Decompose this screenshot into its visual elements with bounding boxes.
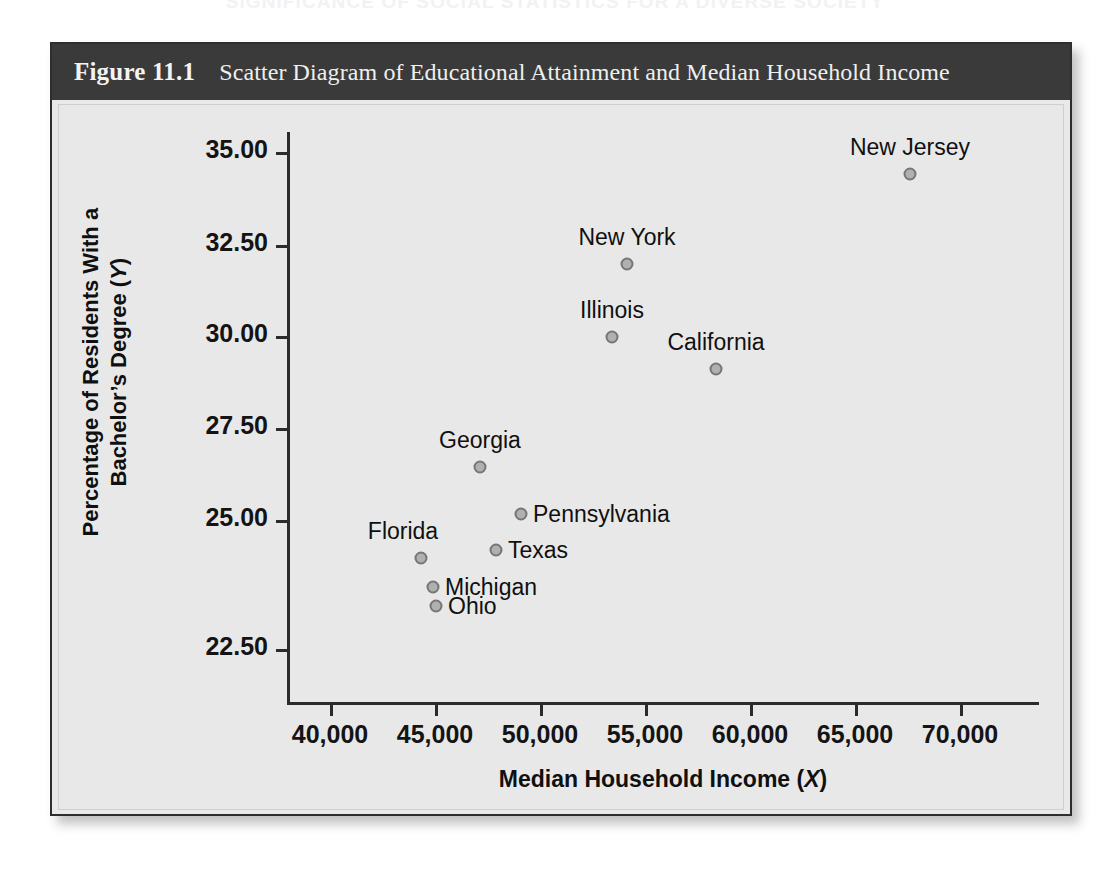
x-tick-mark bbox=[960, 705, 963, 716]
data-point-marker bbox=[430, 600, 443, 613]
x-tick-mark bbox=[330, 705, 333, 716]
data-point-label: Georgia bbox=[439, 427, 521, 454]
y-axis-variable: Y bbox=[106, 265, 131, 280]
figure-number: Figure 11.1 bbox=[74, 58, 195, 86]
y-tick-label: 35.00 bbox=[168, 135, 268, 164]
x-tick-mark bbox=[645, 705, 648, 716]
x-axis-line bbox=[287, 702, 1039, 705]
data-point-label: Illinois bbox=[580, 297, 644, 324]
y-axis-title: Percentage of Residents With a Bachelor’… bbox=[77, 112, 133, 632]
y-axis-title-line1: Percentage of Residents With a bbox=[78, 208, 103, 537]
y-tick-mark bbox=[276, 245, 287, 248]
y-tick-mark bbox=[276, 428, 287, 431]
data-point-marker bbox=[490, 544, 503, 557]
data-point-marker bbox=[710, 363, 723, 376]
data-point-label: New York bbox=[578, 224, 675, 251]
data-point-marker bbox=[606, 331, 619, 344]
y-axis-line bbox=[287, 132, 290, 705]
y-axis-title-close: ) bbox=[106, 258, 131, 265]
figure-box: Figure 11.1 Scatter Diagram of Education… bbox=[50, 42, 1072, 816]
x-tick-mark bbox=[540, 705, 543, 716]
figure-caption: Scatter Diagram of Educational Attainmen… bbox=[219, 59, 950, 86]
data-point-marker bbox=[621, 258, 634, 271]
data-point-marker bbox=[415, 552, 428, 565]
y-tick-label: 22.50 bbox=[168, 632, 268, 661]
x-axis-title-close: ) bbox=[820, 766, 828, 792]
data-point-label: Texas bbox=[508, 537, 568, 564]
data-point-label: California bbox=[667, 329, 764, 356]
data-point-label: Ohio bbox=[448, 593, 497, 620]
y-tick-mark bbox=[276, 520, 287, 523]
x-axis-title-text: Median Household Income ( bbox=[499, 766, 804, 792]
data-point-label: Pennsylvania bbox=[533, 501, 670, 528]
data-point-label: Florida bbox=[368, 518, 438, 545]
data-point-marker bbox=[474, 461, 487, 474]
y-tick-mark bbox=[276, 336, 287, 339]
data-point-marker bbox=[427, 581, 440, 594]
x-axis-title: Median Household Income (X) bbox=[287, 766, 1039, 793]
x-tick-mark bbox=[855, 705, 858, 716]
y-axis-title-line2: Bachelor’s Degree ( bbox=[106, 280, 131, 487]
y-tick-label: 30.00 bbox=[168, 319, 268, 348]
data-point-marker bbox=[904, 168, 917, 181]
y-tick-label: 25.00 bbox=[168, 503, 268, 532]
running-head: SIGNIFICANCE OF SOCIAL STATISTICS FOR A … bbox=[0, 0, 1110, 13]
data-point-label: New Jersey bbox=[850, 134, 970, 161]
x-tick-mark bbox=[750, 705, 753, 716]
data-point-marker bbox=[515, 508, 528, 521]
y-tick-label: 32.50 bbox=[168, 228, 268, 257]
y-tick-mark bbox=[276, 649, 287, 652]
y-tick-label: 27.50 bbox=[168, 411, 268, 440]
x-axis-variable: X bbox=[804, 766, 819, 792]
figure-header: Figure 11.1 Scatter Diagram of Education… bbox=[52, 44, 1070, 100]
y-tick-mark bbox=[276, 152, 287, 155]
x-tick-label: 70,000 bbox=[895, 720, 1025, 749]
x-tick-mark bbox=[435, 705, 438, 716]
